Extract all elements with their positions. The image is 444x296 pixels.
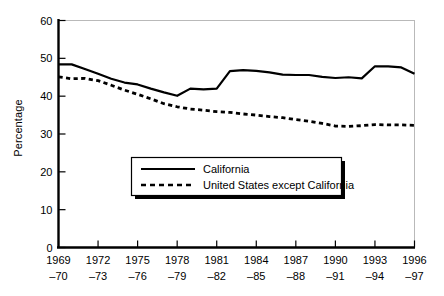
x-axis-tick-label-year: 1993 xyxy=(363,254,387,266)
x-axis-tick-label-year2: –88 xyxy=(287,270,305,282)
plot-frame xyxy=(59,21,415,248)
chart-legend: California United States except Californ… xyxy=(132,158,355,200)
x-axis-tick-label-year: 1981 xyxy=(204,254,228,266)
legend-label-us-except-california: United States except California xyxy=(203,179,355,191)
x-axis-tick-label-year2: –76 xyxy=(128,270,146,282)
legend-label-california: California xyxy=(203,163,250,175)
y-axis-tick-label: 10 xyxy=(40,204,52,216)
x-axis-tick-label-year2: –82 xyxy=(208,270,226,282)
x-axis-tick-label-year2: –79 xyxy=(168,270,186,282)
x-axis-tick-label-year: 1978 xyxy=(165,254,189,266)
x-axis-tick-label-year2: –73 xyxy=(89,270,107,282)
y-axis-tick-label: 0 xyxy=(46,242,52,254)
y-axis-tick-label: 50 xyxy=(40,52,52,64)
x-axis-tick-label-year: 1972 xyxy=(86,254,110,266)
x-axis-tick-label-year2: –70 xyxy=(49,270,67,282)
y-axis-tick-label: 30 xyxy=(40,128,52,140)
y-axis-tick-label: 60 xyxy=(40,15,52,27)
chart-canvas: 0102030405060 1969–701972–731975–761978–… xyxy=(0,0,444,296)
x-axis-tick-label-year: 1996 xyxy=(402,254,426,266)
x-axis-tick-label-year2: –85 xyxy=(247,270,265,282)
y-axis-tick-label: 40 xyxy=(40,90,52,102)
x-axis-tick-label-year2: –97 xyxy=(405,270,423,282)
x-axis-tick-label-year: 1975 xyxy=(125,254,149,266)
y-axis-tick-label: 20 xyxy=(40,166,52,178)
x-axis-tick-labels: 1969–701972–731975–761978–791981–821984–… xyxy=(46,254,426,282)
x-axis-tick-label-year: 1990 xyxy=(323,254,347,266)
line-chart: Percentage 0102030405060 1969–701972–731… xyxy=(0,0,444,296)
x-axis-tick-label-year: 1984 xyxy=(244,254,268,266)
x-axis-tick-label-year2: –91 xyxy=(326,270,344,282)
x-axis-tick-label-year: 1987 xyxy=(284,254,308,266)
x-axis-tick-label-year2: –94 xyxy=(366,270,384,282)
x-axis-tick-label-year: 1969 xyxy=(46,254,70,266)
